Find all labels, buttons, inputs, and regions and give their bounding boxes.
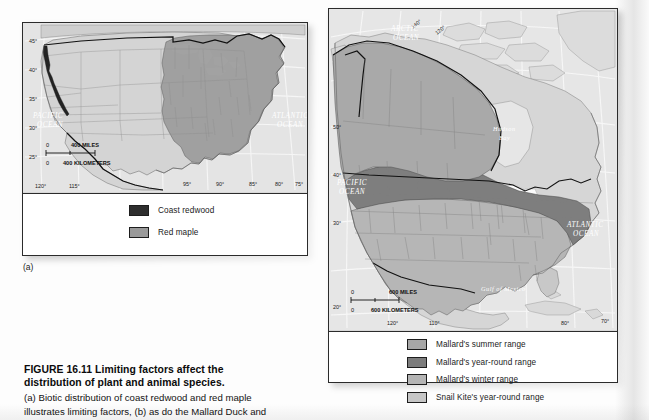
figure-caption-body-line1: (a) Biotic distribution of coast redwood…: [24, 391, 324, 404]
svg-text:120°: 120°: [35, 183, 46, 189]
legend-label-mallard-year-round: Mallard's year-round range: [436, 358, 536, 367]
svg-text:80°: 80°: [561, 320, 569, 326]
svg-text:95°: 95°: [183, 181, 191, 187]
svg-text:Hudson: Hudson: [492, 125, 516, 132]
svg-text:30°: 30°: [333, 220, 341, 226]
svg-text:400 KILOMETERS: 400 KILOMETERS: [63, 160, 111, 166]
svg-text:115°: 115°: [69, 183, 80, 189]
legend-item-snail-kite: Snail Kite's year-round range: [407, 392, 617, 403]
svg-text:OCEAN: OCEAN: [573, 230, 600, 238]
legend-label-red-maple: Red maple: [158, 228, 199, 237]
svg-text:PACIFIC: PACIFIC: [32, 112, 63, 120]
map-b-svg: 50° 40° 30° 20° 140° 120° 120° 110° 80° …: [329, 9, 617, 330]
map-b-north-america: 50° 40° 30° 20° 140° 120° 120° 110° 80° …: [329, 9, 617, 332]
svg-text:0: 0: [351, 307, 354, 313]
legend-swatch-mallard-year-round: [407, 357, 427, 368]
legend-item-coast-redwood: Coast redwood: [129, 205, 307, 216]
legend-swatch-coast-redwood: [129, 205, 149, 216]
svg-text:PACIFIC: PACIFIC: [336, 179, 367, 187]
svg-text:25°: 25°: [29, 154, 37, 160]
svg-text:40°: 40°: [333, 172, 341, 178]
legend-a: Coast redwood Red maple: [23, 194, 307, 255]
ocean-label-atlantic-a: ATLANTIC OCEAN: [271, 112, 307, 129]
svg-text:120°: 120°: [387, 320, 398, 326]
legend-swatch-red-maple: [129, 227, 149, 238]
panel-a-figure: 45° 40° 35° 30° 25° 120° 115° 95° 90° 85…: [22, 22, 308, 256]
legend-swatch-snail-kite: [407, 392, 427, 403]
svg-text:110°: 110°: [429, 320, 440, 326]
svg-text:OCEAN: OCEAN: [37, 121, 64, 129]
svg-text:0: 0: [351, 289, 354, 295]
ocean-label-pacific-b: PACIFIC OCEAN: [336, 179, 367, 196]
svg-text:ARCTIC: ARCTIC: [390, 25, 419, 33]
panel-b-figure: 50° 40° 30° 20° 140° 120° 120° 110° 80° …: [328, 8, 618, 383]
svg-text:80°: 80°: [275, 181, 283, 187]
svg-text:OCEAN: OCEAN: [393, 34, 420, 42]
svg-text:35°: 35°: [29, 96, 37, 102]
legend-item-mallard-winter: Mallard's winter range: [407, 374, 617, 385]
svg-text:30°: 30°: [29, 125, 37, 131]
svg-text:20°: 20°: [333, 304, 341, 310]
figure-caption-title-line2: distribution of plant and animal species…: [24, 376, 324, 389]
legend-item-mallard-year-round: Mallard's year-round range: [407, 357, 617, 368]
legend-item-mallard-summer: Mallard's summer range: [407, 339, 617, 350]
legend-item-red-maple: Red maple: [129, 227, 307, 238]
figure-caption-body-line2: illustrates limiting factors, (b) as do …: [24, 405, 324, 418]
legend-swatch-mallard-summer: [407, 339, 427, 350]
svg-text:600 KILOMETERS: 600 KILOMETERS: [371, 307, 419, 313]
svg-text:45°: 45°: [29, 38, 37, 44]
svg-text:40°: 40°: [29, 67, 37, 73]
legend-b: Mallard's summer range Mallard's year-ro…: [329, 332, 617, 382]
svg-text:70°: 70°: [601, 318, 609, 324]
svg-text:OCEAN: OCEAN: [277, 121, 304, 129]
svg-text:85°: 85°: [249, 181, 257, 187]
svg-text:Bay: Bay: [499, 134, 510, 141]
map-a-svg: 45° 40° 35° 30° 25° 120° 115° 95° 90° 85…: [23, 23, 307, 192]
svg-text:OCEAN: OCEAN: [339, 188, 366, 196]
figure-caption: FIGURE 16.11 Limiting factors affect the…: [24, 363, 324, 418]
svg-text:90°: 90°: [216, 181, 224, 187]
figure-caption-title-line1: FIGURE 16.11 Limiting factors affect the: [24, 363, 324, 376]
svg-text:50°: 50°: [333, 124, 341, 130]
ocean-label-arctic-b: ARCTIC OCEAN: [390, 25, 420, 42]
legend-label-mallard-winter: Mallard's winter range: [436, 375, 518, 384]
legend-label-coast-redwood: Coast redwood: [158, 206, 214, 215]
svg-text:600 MILES: 600 MILES: [389, 289, 417, 295]
legend-swatch-mallard-winter: [407, 374, 427, 385]
svg-text:400 MILES: 400 MILES: [71, 142, 99, 148]
legend-label-mallard-summer: Mallard's summer range: [436, 340, 526, 349]
panel-a-sublabel: (a): [23, 262, 33, 272]
svg-text:75°: 75°: [295, 181, 303, 187]
svg-text:ATLANTIC: ATLANTIC: [566, 221, 604, 229]
svg-text:0: 0: [46, 160, 49, 166]
label-gulf-of-mexico: Gulf of Mexico: [481, 285, 526, 292]
figure-page: 45° 40° 35° 30° 25° 120° 115° 95° 90° 85…: [0, 0, 649, 420]
svg-text:0: 0: [46, 142, 49, 148]
legend-label-snail-kite: Snail Kite's year-round range: [436, 393, 544, 402]
ocean-label-pacific-a: PACIFIC OCEAN: [32, 112, 64, 129]
svg-text:ATLANTIC: ATLANTIC: [271, 112, 307, 120]
map-a-united-states: 45° 40° 35° 30° 25° 120° 115° 95° 90° 85…: [23, 23, 307, 194]
